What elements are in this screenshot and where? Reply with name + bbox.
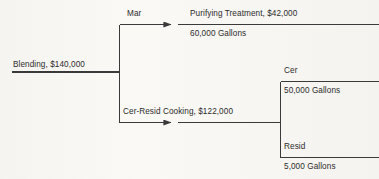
label-blending-input: Blending, $140,000 xyxy=(13,61,85,69)
label-mar-split: Mar xyxy=(127,10,141,18)
label-cer-output: Cer xyxy=(284,67,297,75)
label-cer-gallons: 50,000 Gallons xyxy=(284,87,340,95)
label-purifying-gallons: 60,000 Gallons xyxy=(190,30,246,38)
label-purifying-treatment: Purifying Treatment, $42,000 xyxy=(190,10,297,18)
label-resid-output: Resid xyxy=(284,143,305,151)
label-cer-resid-cooking: Cer-Resid Cooking, $122,000 xyxy=(123,108,233,116)
diagram-canvas: Blending, $140,000 Mar Purifying Treatme… xyxy=(0,0,379,179)
label-resid-gallons: 5,000 Gallons xyxy=(284,163,336,171)
